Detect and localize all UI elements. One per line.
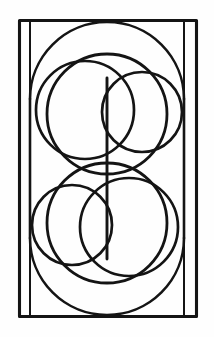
geometric-figure-svg: Geometric circle composition Vertical re… [0,0,214,337]
figure-root: Geometric circle composition Vertical re… [0,0,214,337]
